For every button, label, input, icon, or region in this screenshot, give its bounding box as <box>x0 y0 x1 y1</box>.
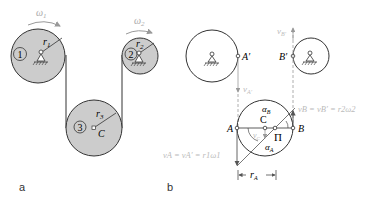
point-c-label: C <box>260 114 267 125</box>
velocity-b-equation: vB = vB′ = r2ω2 <box>298 104 356 114</box>
pivot-support-icon <box>204 52 219 66</box>
panel-a: 1 r1 ω1 2 r2 ω2 3 r3 C a <box>11 7 158 193</box>
alpha-a-label: αA <box>265 142 274 153</box>
alpha-b-label: αB <box>262 104 271 115</box>
velocity-a-equation: vA = vA′ = r1ω1 <box>163 150 220 160</box>
panel-b-label: b <box>167 181 173 193</box>
belt-pulley-diagram: 1 r1 ω1 2 r2 ω2 3 r3 C a <box>0 0 381 203</box>
instant-center-pi <box>273 126 277 130</box>
instant-center-label: Π <box>274 131 282 143</box>
omega2-arrow <box>126 31 152 34</box>
omega1-arrow <box>28 22 60 26</box>
velocity-c-label: vC <box>253 131 261 141</box>
pivot-support-icon <box>302 51 317 65</box>
pulley-2-number: 2 <box>129 49 134 60</box>
panel-b: A′ vA′ B′ vB′ <box>163 26 356 193</box>
point-b-label: B <box>298 123 304 134</box>
velocity-b-prime-label: vB′ <box>277 26 287 37</box>
point-b <box>291 126 295 130</box>
center-point-c <box>92 126 96 130</box>
omega2-label: ω2 <box>134 15 145 28</box>
point-a <box>235 126 239 130</box>
pulley-3-center-label: C <box>98 128 105 139</box>
point-b-prime-label: B′ <box>279 51 288 62</box>
omega1-label: ω1 <box>36 7 47 20</box>
radius-a-dimension-label: rA <box>250 169 258 181</box>
angle-arc-b <box>286 121 288 128</box>
velocity-a-prime-label: vA′ <box>243 84 253 95</box>
point-a-prime-label: A′ <box>241 51 251 62</box>
panel-a-label: a <box>19 181 26 193</box>
pulley-3-number: 3 <box>78 122 83 133</box>
pulley-1-number: 1 <box>18 49 23 60</box>
point-c <box>263 126 267 130</box>
point-a-label: A <box>226 123 234 134</box>
